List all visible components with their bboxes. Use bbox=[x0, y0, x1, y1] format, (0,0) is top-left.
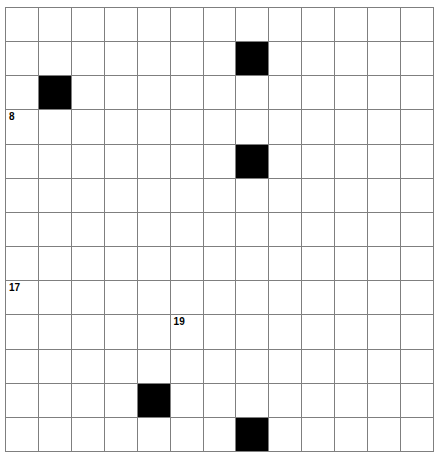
grid-cell[interactable] bbox=[138, 76, 170, 109]
grid-cell[interactable] bbox=[302, 281, 334, 314]
grid-cell[interactable] bbox=[138, 42, 170, 75]
grid-cell[interactable] bbox=[39, 281, 71, 314]
grid-cell[interactable] bbox=[171, 110, 203, 143]
grid-cell[interactable] bbox=[269, 42, 301, 75]
grid-cell[interactable] bbox=[105, 384, 137, 417]
grid-cell[interactable] bbox=[401, 281, 433, 314]
grid-cell[interactable] bbox=[204, 76, 236, 109]
grid-cell[interactable] bbox=[401, 8, 433, 41]
grid-cell[interactable] bbox=[368, 247, 400, 280]
grid-cell[interactable] bbox=[335, 315, 367, 348]
grid-cell[interactable] bbox=[335, 247, 367, 280]
grid-cell[interactable] bbox=[138, 145, 170, 178]
grid-cell[interactable] bbox=[204, 418, 236, 451]
grid-cell[interactable] bbox=[335, 145, 367, 178]
grid-cell[interactable] bbox=[368, 281, 400, 314]
grid-cell[interactable] bbox=[6, 384, 38, 417]
grid-cell[interactable] bbox=[72, 76, 104, 109]
grid-cell[interactable] bbox=[39, 384, 71, 417]
grid-cell[interactable] bbox=[72, 213, 104, 246]
grid-cell[interactable] bbox=[335, 384, 367, 417]
grid-cell[interactable] bbox=[204, 281, 236, 314]
grid-cell[interactable] bbox=[368, 110, 400, 143]
grid-cell[interactable] bbox=[269, 281, 301, 314]
grid-cell[interactable] bbox=[171, 42, 203, 75]
grid-cell[interactable] bbox=[105, 42, 137, 75]
grid-cell[interactable] bbox=[138, 315, 170, 348]
grid-cell[interactable] bbox=[335, 213, 367, 246]
grid-cell[interactable] bbox=[204, 110, 236, 143]
grid-cell[interactable] bbox=[302, 179, 334, 212]
grid-cell[interactable] bbox=[401, 247, 433, 280]
grid-cell[interactable] bbox=[302, 350, 334, 383]
grid-cell[interactable] bbox=[368, 418, 400, 451]
grid-cell[interactable]: 8 bbox=[6, 110, 38, 143]
grid-cell[interactable] bbox=[302, 315, 334, 348]
grid-cell[interactable] bbox=[236, 315, 268, 348]
grid-cell[interactable] bbox=[72, 110, 104, 143]
grid-cell[interactable] bbox=[368, 145, 400, 178]
grid-cell[interactable] bbox=[171, 213, 203, 246]
grid-cell[interactable] bbox=[236, 384, 268, 417]
grid-cell[interactable] bbox=[269, 384, 301, 417]
grid-cell[interactable] bbox=[6, 315, 38, 348]
grid-cell[interactable] bbox=[138, 179, 170, 212]
grid-cell[interactable] bbox=[204, 247, 236, 280]
grid-cell[interactable] bbox=[138, 213, 170, 246]
grid-cell[interactable] bbox=[302, 213, 334, 246]
grid-cell[interactable] bbox=[105, 110, 137, 143]
grid-cell[interactable] bbox=[171, 247, 203, 280]
grid-cell[interactable] bbox=[269, 8, 301, 41]
grid-cell[interactable] bbox=[105, 281, 137, 314]
grid-cell[interactable] bbox=[72, 42, 104, 75]
grid-cell[interactable] bbox=[171, 384, 203, 417]
grid-cell[interactable] bbox=[171, 350, 203, 383]
grid-cell[interactable] bbox=[401, 213, 433, 246]
grid-cell[interactable] bbox=[302, 418, 334, 451]
grid-cell[interactable] bbox=[302, 110, 334, 143]
grid-cell[interactable] bbox=[39, 145, 71, 178]
grid-cell[interactable] bbox=[171, 8, 203, 41]
grid-cell[interactable] bbox=[269, 145, 301, 178]
grid-cell[interactable] bbox=[39, 315, 71, 348]
grid-cell[interactable] bbox=[269, 315, 301, 348]
grid-cell[interactable] bbox=[335, 281, 367, 314]
grid-cell[interactable] bbox=[72, 350, 104, 383]
grid-cell[interactable] bbox=[72, 281, 104, 314]
grid-cell[interactable] bbox=[39, 42, 71, 75]
grid-cell[interactable] bbox=[302, 247, 334, 280]
grid-cell[interactable] bbox=[269, 110, 301, 143]
grid-cell[interactable] bbox=[6, 76, 38, 109]
grid-cell[interactable] bbox=[368, 384, 400, 417]
grid-cell[interactable] bbox=[302, 42, 334, 75]
grid-cell[interactable] bbox=[401, 384, 433, 417]
grid-cell[interactable] bbox=[335, 76, 367, 109]
grid-cell[interactable] bbox=[368, 76, 400, 109]
grid-cell[interactable] bbox=[401, 76, 433, 109]
grid-cell[interactable] bbox=[302, 8, 334, 41]
grid-cell[interactable] bbox=[6, 350, 38, 383]
grid-cell[interactable] bbox=[236, 76, 268, 109]
grid-cell[interactable] bbox=[39, 418, 71, 451]
grid-cell[interactable] bbox=[39, 247, 71, 280]
grid-cell[interactable] bbox=[138, 8, 170, 41]
grid-cell[interactable] bbox=[171, 145, 203, 178]
grid-cell[interactable]: 17 bbox=[6, 281, 38, 314]
grid-cell[interactable] bbox=[368, 179, 400, 212]
grid-cell[interactable] bbox=[204, 213, 236, 246]
grid-cell[interactable] bbox=[236, 8, 268, 41]
grid-cell[interactable] bbox=[236, 179, 268, 212]
grid-cell[interactable] bbox=[72, 8, 104, 41]
grid-cell[interactable] bbox=[39, 110, 71, 143]
grid-cell[interactable] bbox=[269, 247, 301, 280]
grid-cell[interactable] bbox=[401, 315, 433, 348]
grid-cell[interactable] bbox=[302, 76, 334, 109]
grid-cell[interactable] bbox=[138, 247, 170, 280]
grid-cell[interactable] bbox=[401, 418, 433, 451]
grid-cell[interactable] bbox=[236, 350, 268, 383]
grid-cell[interactable] bbox=[6, 418, 38, 451]
grid-cell[interactable] bbox=[39, 350, 71, 383]
grid-cell[interactable] bbox=[6, 247, 38, 280]
grid-cell[interactable] bbox=[105, 350, 137, 383]
grid-cell[interactable] bbox=[335, 179, 367, 212]
